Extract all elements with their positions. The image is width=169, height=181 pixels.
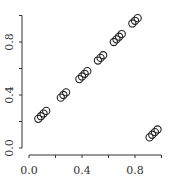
x-tick-label: 0.4 [73, 164, 91, 177]
scatter-chart: 0.00.40.80.00.40.8 [0, 0, 169, 181]
y-tick-label: 0.4 [3, 86, 16, 104]
axes: 0.00.40.80.00.40.8 [3, 16, 162, 178]
y-tick-label: 0.8 [3, 33, 16, 51]
y-tick-label: 0.0 [3, 139, 16, 157]
x-tick-label: 0.8 [126, 164, 144, 177]
data-points [35, 15, 161, 141]
x-tick-label: 0.0 [20, 164, 38, 177]
